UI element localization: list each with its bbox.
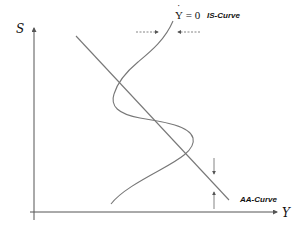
aa-curve-label: AA-Curve: [240, 196, 277, 204]
ydot-equals-zero-label: Y = 0: [175, 10, 200, 21]
s-axis-label: S: [16, 23, 24, 35]
ydot-symbol: Y: [175, 10, 183, 21]
y-axis-label: Y: [282, 207, 290, 219]
aa-curve-line: [76, 36, 229, 200]
is-curve-label: IS-Curve: [207, 12, 240, 20]
equals-zero: = 0: [183, 9, 200, 21]
is-aa-diagram: S Y Y = 0 IS-Curve AA-Curve: [0, 0, 306, 228]
diagram-canvas: [0, 0, 306, 228]
is-curve-line: [111, 21, 193, 204]
